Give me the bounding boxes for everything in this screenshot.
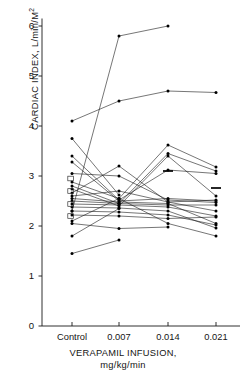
series-segment bbox=[119, 227, 168, 229]
data-point bbox=[71, 172, 74, 175]
series-segment bbox=[119, 26, 168, 36]
data-point bbox=[215, 166, 218, 169]
series-segment bbox=[119, 199, 168, 224]
data-point bbox=[167, 210, 170, 213]
x-tick-label: 0.021 bbox=[188, 332, 244, 342]
series-segment bbox=[72, 204, 119, 205]
data-point bbox=[215, 210, 218, 213]
data-point bbox=[167, 144, 170, 147]
series-segment bbox=[119, 205, 168, 207]
series-segment bbox=[119, 91, 168, 101]
data-point bbox=[71, 210, 74, 213]
series-segment bbox=[72, 215, 119, 216]
data-point bbox=[215, 199, 218, 202]
cardiac-index-figure: CARDIAC INDEX, L/min/M2 0123456 Control0… bbox=[0, 0, 246, 381]
series-segment bbox=[72, 209, 119, 237]
series-segment bbox=[119, 208, 168, 211]
data-point bbox=[118, 211, 121, 214]
x-tick-label: 0.007 bbox=[91, 332, 147, 342]
data-point bbox=[71, 185, 74, 188]
data-point bbox=[167, 222, 170, 225]
data-point bbox=[118, 204, 121, 207]
y-tick-label: 3 bbox=[16, 170, 34, 181]
box-marker bbox=[68, 176, 74, 181]
data-point bbox=[71, 120, 74, 123]
series-segment bbox=[72, 240, 119, 254]
data-point bbox=[167, 155, 170, 158]
y-axis-title-superscript: 2 bbox=[28, 8, 35, 12]
data-point bbox=[167, 214, 170, 217]
x-axis-title-line1: VERAPAMIL INFUSION, bbox=[69, 348, 176, 358]
series-segment bbox=[119, 170, 168, 200]
y-tick-label: 5 bbox=[16, 70, 34, 81]
series-segment bbox=[72, 199, 119, 222]
series-segment bbox=[72, 207, 119, 208]
series-segment bbox=[72, 101, 119, 121]
data-point bbox=[71, 222, 74, 225]
data-point bbox=[118, 190, 121, 193]
data-point bbox=[71, 203, 74, 206]
data-point bbox=[167, 206, 170, 209]
data-point bbox=[71, 200, 74, 203]
series-lines bbox=[72, 26, 216, 254]
data-point bbox=[215, 91, 218, 94]
data-point bbox=[118, 215, 121, 218]
axes bbox=[39, 19, 241, 327]
x-axis-title-line2: mg/kg/min bbox=[0, 360, 246, 372]
data-point bbox=[118, 165, 121, 168]
data-point bbox=[118, 35, 121, 38]
data-point bbox=[118, 239, 121, 242]
data-point bbox=[71, 252, 74, 255]
series-segment bbox=[72, 166, 119, 193]
data-point bbox=[215, 195, 218, 198]
series-segment bbox=[72, 139, 119, 196]
data-point bbox=[71, 137, 74, 140]
data-point bbox=[118, 194, 121, 197]
series-segment bbox=[168, 170, 216, 174]
series-segment bbox=[168, 91, 216, 93]
series-segment bbox=[168, 215, 216, 225]
y-tick-label: 0 bbox=[16, 320, 34, 331]
series-segment bbox=[72, 224, 119, 229]
series-segment bbox=[119, 216, 168, 219]
data-point bbox=[71, 161, 74, 164]
data-point bbox=[71, 206, 74, 209]
data-point bbox=[215, 204, 218, 207]
series-segment bbox=[72, 211, 119, 212]
data-point bbox=[118, 100, 121, 103]
data-point bbox=[118, 227, 121, 230]
series-segment bbox=[119, 204, 168, 206]
data-point bbox=[167, 25, 170, 28]
data-point bbox=[167, 90, 170, 93]
series-segment bbox=[72, 174, 119, 177]
y-tick-label: 2 bbox=[16, 220, 34, 231]
data-point bbox=[118, 175, 121, 178]
data-point bbox=[118, 197, 121, 200]
series-segment bbox=[119, 154, 168, 204]
series-segment bbox=[119, 212, 168, 215]
y-tick-label: 6 bbox=[16, 20, 34, 31]
data-point bbox=[71, 155, 74, 158]
data-point bbox=[215, 224, 218, 227]
data-point bbox=[167, 226, 170, 229]
series-segment bbox=[72, 182, 119, 199]
y-tick-label: 4 bbox=[16, 120, 34, 131]
data-point bbox=[215, 235, 218, 238]
data-point bbox=[215, 170, 218, 173]
data-point bbox=[215, 216, 218, 219]
x-axis-title: VERAPAMIL INFUSION, mg/kg/min bbox=[0, 348, 246, 371]
data-point bbox=[71, 235, 74, 238]
data-point bbox=[215, 227, 218, 230]
series-segment bbox=[168, 217, 216, 219]
y-tick-label: 1 bbox=[16, 270, 34, 281]
data-point bbox=[167, 217, 170, 220]
data-point bbox=[118, 207, 121, 210]
series-segment bbox=[119, 156, 168, 206]
series-segment bbox=[168, 207, 216, 216]
